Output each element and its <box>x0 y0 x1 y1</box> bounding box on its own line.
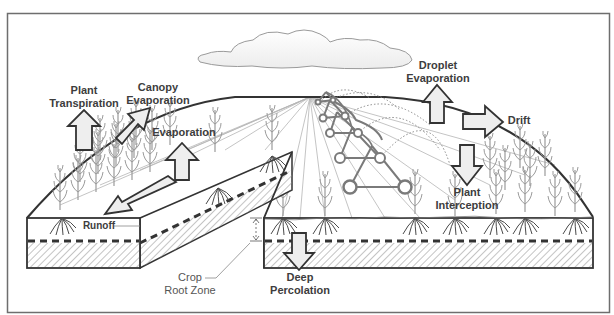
label-deep-percolation: Deep Percolation <box>270 271 330 297</box>
label-line: Interception <box>436 199 499 212</box>
label-line: Root Zone <box>164 284 215 297</box>
label-droplet-evaporation: Droplet Evaporation <box>406 59 470 85</box>
diagram-canvas <box>0 0 614 315</box>
label-crop-root-zone: Crop Root Zone <box>164 271 215 297</box>
label-line: Percolation <box>270 284 330 297</box>
label-drift: Drift <box>508 114 531 127</box>
label-line: Evaporation <box>406 72 470 85</box>
label-line: Transpiration <box>49 97 119 110</box>
label-line: Crop <box>164 271 215 284</box>
label-line: Plant <box>49 84 119 97</box>
label-line: Plant <box>436 186 499 199</box>
label-line: Evaporation <box>126 94 190 107</box>
label-line: Drift <box>508 114 531 127</box>
label-line: Evaporation <box>152 126 216 139</box>
label-plant-transpiration: Plant Transpiration <box>49 84 119 110</box>
irrigation-diagram: Plant Transpiration Canopy Evaporation E… <box>0 0 614 315</box>
label-line: Droplet <box>406 59 470 72</box>
label-evaporation: Evaporation <box>152 126 216 139</box>
label-plant-interception: Plant Interception <box>436 186 499 212</box>
label-line: Runoff <box>83 219 115 232</box>
label-canopy-evaporation: Canopy Evaporation <box>126 81 190 107</box>
label-runoff: Runoff <box>83 219 115 232</box>
label-line: Deep <box>270 271 330 284</box>
label-line: Canopy <box>126 81 190 94</box>
